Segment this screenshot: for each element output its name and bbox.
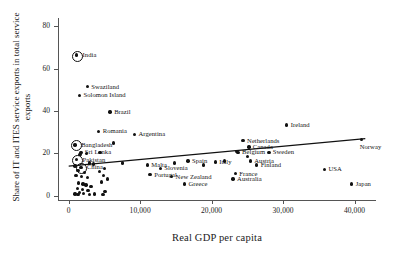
point-label: Ireland bbox=[291, 121, 310, 128]
point-label: Belgium bbox=[242, 148, 265, 155]
point-label: Finland bbox=[261, 161, 282, 168]
point-label: Norway bbox=[360, 143, 382, 150]
data-point bbox=[89, 185, 92, 188]
point-label: Swaziland bbox=[91, 83, 119, 90]
point-label: Spain bbox=[192, 157, 207, 164]
scatter-chart: 010,00020,00030,00040,000 020406080 Indi… bbox=[0, 0, 397, 269]
data-point-bangladesh bbox=[73, 143, 76, 146]
data-point bbox=[73, 164, 76, 167]
data-point bbox=[74, 174, 77, 177]
data-point bbox=[78, 153, 81, 156]
x-axis-title: Real GDP per capita bbox=[58, 232, 376, 243]
point-label: Solomon Island bbox=[83, 91, 125, 98]
point-label: Portugal bbox=[154, 171, 177, 178]
point-label: Japan bbox=[356, 180, 371, 187]
data-point bbox=[173, 161, 176, 164]
x-axis-line bbox=[58, 200, 376, 201]
x-tick bbox=[283, 200, 284, 204]
point-label: Sweden bbox=[273, 148, 294, 155]
data-point bbox=[103, 190, 106, 193]
data-point-brazil bbox=[108, 110, 111, 113]
plot-area: IndiaSwazilandSolomon IslandBrazilRomani… bbox=[58, 18, 376, 200]
data-point-italy bbox=[214, 160, 217, 163]
x-tick bbox=[212, 200, 213, 204]
x-tick-label: 40,000 bbox=[325, 206, 385, 215]
data-point bbox=[106, 177, 109, 180]
point-label: Greece bbox=[188, 180, 207, 187]
data-point-sweden bbox=[267, 151, 270, 154]
data-point bbox=[76, 187, 79, 190]
data-point bbox=[84, 183, 87, 186]
data-point-greece bbox=[183, 182, 186, 185]
x-tick bbox=[69, 200, 70, 204]
x-tick-label: 20,000 bbox=[182, 206, 242, 215]
x-tick-label: 10,000 bbox=[110, 206, 170, 215]
x-tick-label: 30,000 bbox=[253, 206, 313, 215]
data-point bbox=[121, 161, 124, 164]
point-label: Australia bbox=[237, 175, 262, 182]
data-point bbox=[98, 151, 101, 154]
data-point-ireland bbox=[285, 123, 288, 126]
y-axis-title: Share of IT and ITES service exports in … bbox=[11, 9, 33, 205]
data-point-solomon-island bbox=[78, 94, 81, 97]
data-point-austria bbox=[249, 159, 252, 162]
trendline bbox=[58, 18, 376, 200]
point-label: Bangladesh bbox=[81, 141, 112, 148]
data-point bbox=[76, 169, 79, 172]
data-point-india bbox=[75, 53, 78, 56]
point-label: Brazil bbox=[114, 108, 130, 115]
data-point bbox=[93, 192, 96, 195]
point-label: Argentina bbox=[138, 130, 165, 137]
data-point bbox=[223, 159, 226, 162]
data-point-slovenia bbox=[159, 167, 162, 170]
data-point bbox=[103, 167, 106, 170]
point-label: USA bbox=[329, 165, 342, 172]
data-point bbox=[81, 188, 84, 191]
data-point bbox=[88, 161, 91, 164]
data-point bbox=[100, 180, 103, 183]
point-label: Romania bbox=[103, 127, 127, 134]
x-tick bbox=[355, 200, 356, 204]
point-label: New Zealand bbox=[176, 173, 212, 180]
point-label: India bbox=[83, 51, 97, 58]
data-point bbox=[86, 189, 89, 192]
x-tick bbox=[140, 200, 141, 204]
data-point-spain bbox=[186, 159, 189, 162]
data-point-china bbox=[79, 166, 82, 169]
data-point-malta bbox=[146, 163, 149, 166]
data-point-australia bbox=[231, 177, 234, 180]
data-point bbox=[101, 193, 104, 196]
x-tick-label: 0 bbox=[39, 206, 99, 215]
